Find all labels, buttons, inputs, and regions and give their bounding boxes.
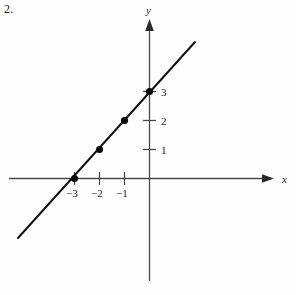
- y-tick-label-3: 3: [161, 86, 167, 98]
- data-point: [121, 117, 128, 124]
- figure-container: 2. 1 2 3 −3 −2 −1 y x: [0, 0, 296, 295]
- x-tick-label-minus-3: −3: [66, 187, 78, 199]
- x-axis-label: x: [281, 173, 287, 185]
- x-axis-arrowhead: [262, 174, 274, 183]
- data-point: [71, 175, 78, 182]
- data-point: [146, 88, 153, 95]
- x-tick-label-minus-1: −1: [116, 187, 128, 199]
- y-axis-arrowhead: [145, 19, 154, 31]
- coordinate-plot: 1 2 3 −3 −2 −1 y x: [0, 0, 296, 295]
- y-tick-label-1: 1: [161, 144, 167, 156]
- y-axis-label: y: [145, 4, 151, 16]
- y-tick-label-2: 2: [161, 115, 167, 127]
- plotted-line: [18, 42, 195, 238]
- data-point: [96, 146, 103, 153]
- x-tick-label-minus-2: −2: [91, 187, 103, 199]
